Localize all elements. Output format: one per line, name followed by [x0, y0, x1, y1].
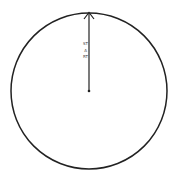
center-dot: [88, 90, 91, 93]
diagram-canvas: [0, 0, 176, 181]
start-label: START: [83, 41, 88, 61]
